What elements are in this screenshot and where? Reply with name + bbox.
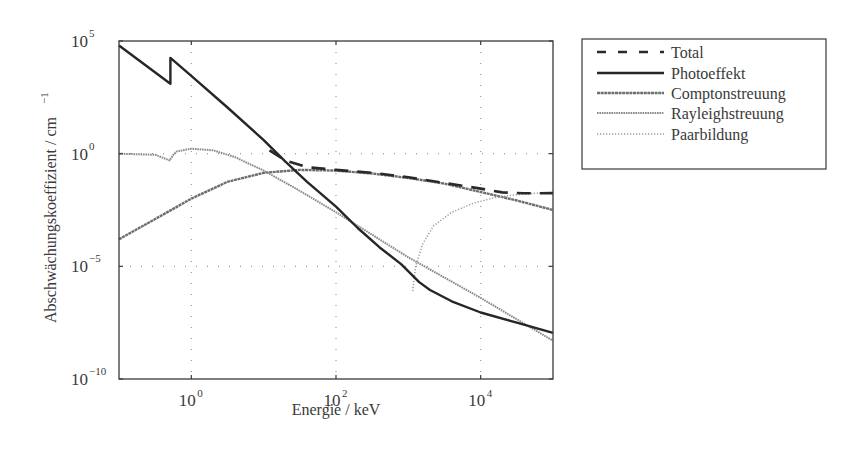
y-tick-exp: 5 bbox=[89, 27, 95, 39]
legend-label: Rayleighstreuung bbox=[671, 105, 784, 123]
y-tick-exp: −5 bbox=[89, 252, 101, 264]
y-tick-base: 10 bbox=[71, 145, 88, 164]
axis-ticks: 10010210410510010−510−10 bbox=[71, 27, 553, 410]
legend-label: Total bbox=[671, 44, 704, 61]
x-tick-base: 10 bbox=[468, 391, 485, 410]
y-tick-exp: 0 bbox=[89, 140, 95, 152]
x-tick-label: 100 bbox=[179, 387, 204, 410]
y-axis-label-exponent: −1 bbox=[38, 92, 50, 104]
attenuation-chart: 10010210410510010−510−10 Energie / keV A… bbox=[0, 0, 855, 463]
y-tick-exp: −10 bbox=[89, 365, 107, 377]
legend-label: Paarbildung bbox=[671, 126, 748, 144]
y-tick-label: 10−5 bbox=[71, 252, 101, 276]
legend-box bbox=[582, 39, 826, 169]
legend-label: Comptonstreuung bbox=[671, 85, 786, 103]
legend-label: Photoeffekt bbox=[671, 65, 746, 82]
y-tick-base: 10 bbox=[71, 257, 88, 276]
curve-paarbildung bbox=[413, 192, 553, 291]
grid-lines bbox=[119, 41, 553, 379]
curve-rayleighstreuung bbox=[119, 149, 553, 341]
y-axis-label-text: Abschwächungskoeffizient / cm bbox=[42, 117, 60, 323]
y-tick-label: 10−10 bbox=[71, 365, 107, 389]
x-axis-label: Energie / keV bbox=[292, 401, 381, 419]
y-tick-label: 100 bbox=[71, 140, 95, 164]
curve-photoeffekt bbox=[119, 46, 553, 333]
legend: TotalPhotoeffektComptonstreuungRayleighs… bbox=[582, 39, 826, 169]
y-tick-base: 10 bbox=[71, 370, 88, 389]
x-tick-exp: 4 bbox=[487, 387, 493, 399]
x-tick-exp: 2 bbox=[342, 387, 348, 399]
y-tick-base: 10 bbox=[71, 32, 88, 51]
x-tick-exp: 0 bbox=[197, 387, 203, 399]
curves bbox=[119, 46, 553, 341]
y-axis-label: Abschwächungskoeffizient / cm −1 bbox=[38, 92, 60, 323]
x-tick-base: 10 bbox=[179, 391, 196, 410]
plot-frame bbox=[119, 41, 553, 379]
y-tick-label: 105 bbox=[71, 27, 95, 51]
x-tick-label: 104 bbox=[468, 387, 493, 410]
